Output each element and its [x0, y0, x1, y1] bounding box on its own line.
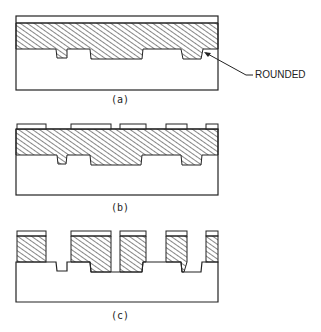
rounded-annotation: ROUNDED: [255, 69, 306, 80]
panel-c-label: (c): [111, 310, 129, 321]
cross-section-figure: ROUNDED (a) (b) (c): [0, 0, 321, 332]
panel-c: (c): [16, 231, 218, 321]
panel-a: ROUNDED (a): [16, 16, 306, 105]
panel-c-substrate: [16, 262, 218, 302]
panel-a-label: (a): [111, 94, 129, 105]
panel-b-mask-segments: [17, 124, 218, 129]
panel-b: (b): [16, 124, 218, 213]
panel-b-label: (b): [111, 202, 129, 213]
